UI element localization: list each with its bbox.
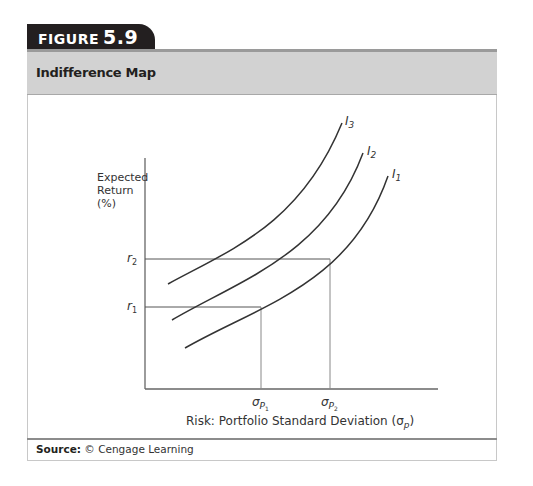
- curve-i1: [185, 176, 388, 348]
- y-axis-label-line3: (%): [97, 197, 116, 210]
- indifference-chart: I3 I2 I1 Expected Return (%) r2 r1 σP1 σ…: [0, 0, 533, 486]
- source-line: Source: © Cengage Learning: [36, 443, 194, 455]
- label-i3: I3: [345, 114, 355, 130]
- source-text: © Cengage Learning: [84, 443, 193, 455]
- label-i1: I1: [392, 167, 401, 183]
- r2-label: r2: [127, 251, 137, 267]
- y-axis-label-line1: Expected: [97, 171, 148, 184]
- label-i2: I2: [367, 144, 377, 160]
- source-divider: [27, 438, 497, 440]
- r1-label: r1: [127, 299, 137, 315]
- curve-i3: [168, 123, 342, 284]
- y-axis-label-line2: Return: [97, 184, 134, 197]
- curve-i2: [172, 153, 363, 320]
- sigma-p2-label: σP2: [321, 395, 338, 412]
- x-axis-label: Risk: Portfolio Standard Deviation (σp): [186, 414, 414, 430]
- source-label: Source:: [36, 443, 81, 455]
- sigma-p1-label: σP1: [252, 395, 269, 412]
